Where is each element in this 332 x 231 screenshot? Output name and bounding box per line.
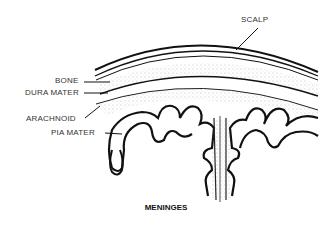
label-scalp: SCALP xyxy=(241,15,268,24)
figure-caption: MENINGES xyxy=(0,203,332,212)
longitudinal-fissure xyxy=(212,116,230,202)
label-arachnoid: ARACHNOID xyxy=(26,114,76,123)
label-dura-mater: DURA MATER xyxy=(25,88,79,97)
label-pia-mater: PIA MATER xyxy=(51,128,95,137)
label-bone: BONE xyxy=(55,76,78,85)
